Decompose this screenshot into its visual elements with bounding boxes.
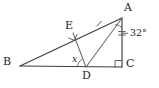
vertex-label-C: C <box>126 58 134 69</box>
right-angle-at-C-icon <box>115 61 121 68</box>
angle-label-x: x <box>72 54 77 64</box>
segment-AD <box>86 18 122 67</box>
vertex-label-E: E <box>65 20 73 31</box>
geometry-figure: A B C D E x 32° <box>0 0 159 88</box>
vertex-label-A: A <box>124 2 132 13</box>
figure-canvas <box>0 0 159 88</box>
segment-BC <box>20 66 122 67</box>
vertex-label-D: D <box>82 70 91 81</box>
angle-label-32: 32° <box>130 28 147 38</box>
tick-on-EA-icon <box>97 21 101 26</box>
vertex-label-B: B <box>3 56 11 67</box>
angle-x-arc <box>78 59 83 67</box>
